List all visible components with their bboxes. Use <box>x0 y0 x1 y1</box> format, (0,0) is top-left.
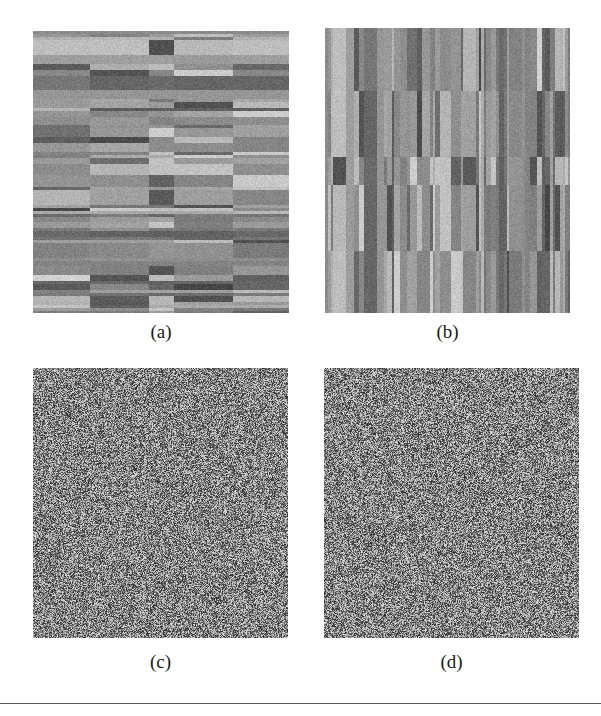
figure-container: (a) (b) (c) (d) <box>0 0 601 716</box>
panel-caption-d: (d) <box>324 652 579 671</box>
figure-panel-c <box>33 368 288 638</box>
figure-panel-d <box>324 368 579 638</box>
panel-c-image <box>33 368 288 638</box>
panel-caption-b: (b) <box>325 322 570 341</box>
panel-d-image <box>324 368 579 638</box>
panel-b-image <box>325 28 570 313</box>
figure-panel-b <box>325 28 570 313</box>
figure-panel-a <box>33 31 289 313</box>
panel-a-image <box>33 31 289 313</box>
panel-caption-a: (a) <box>33 322 289 341</box>
footer-divider <box>0 703 601 704</box>
panel-caption-c: (c) <box>33 652 288 671</box>
